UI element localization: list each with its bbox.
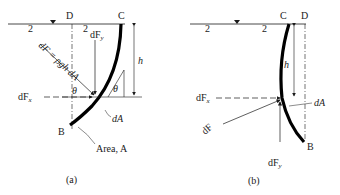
caption-a: (a) bbox=[66, 174, 77, 186]
dFy-label: dFy bbox=[90, 29, 105, 42]
wave-mark: 2 bbox=[83, 23, 88, 34]
area-label: Area, A bbox=[96, 143, 128, 154]
theta-label-left: θ bbox=[72, 85, 77, 96]
dFx-label: dFx bbox=[18, 91, 33, 104]
theta-label-right: θ bbox=[113, 83, 118, 94]
label-b: B bbox=[307, 141, 314, 152]
water-level-triangle-icon bbox=[234, 20, 240, 24]
wave-mark: 2 bbox=[262, 23, 267, 34]
curved-surface-cb bbox=[281, 24, 304, 142]
h-label: h bbox=[138, 55, 143, 66]
label-d: D bbox=[66, 10, 73, 21]
dFy-label: dFy bbox=[268, 157, 283, 170]
wave-mark: 2 bbox=[205, 23, 210, 34]
dF-label: dF bbox=[199, 121, 214, 136]
h-label: h bbox=[284, 59, 289, 70]
label-d: D bbox=[301, 10, 308, 21]
dA-leader bbox=[289, 103, 312, 106]
caption-b: (b) bbox=[248, 175, 260, 187]
dF-equation-label: dF = ρgh dA bbox=[37, 39, 83, 83]
water-level-triangle-icon bbox=[50, 20, 56, 24]
label-c: C bbox=[280, 10, 287, 21]
dFx-label: dFx bbox=[196, 92, 211, 105]
label-b: B bbox=[58, 126, 65, 137]
figure-b: 2 2 C D B h dFx dF dA dFy (b) bbox=[190, 10, 326, 187]
figure-a: 2 2 D C B h dF = ρgh dA dFy dFx θ θ dA A… bbox=[8, 10, 143, 186]
hydrostatic-force-diagram: 2 2 D C B h dF = ρgh dA dFy dFx θ θ dA A… bbox=[0, 0, 340, 195]
label-c: C bbox=[118, 10, 125, 21]
dA-label: dA bbox=[112, 113, 124, 124]
dA-label: dA bbox=[314, 97, 326, 108]
dF-arrow bbox=[223, 100, 280, 124]
wave-mark: 2 bbox=[28, 23, 33, 34]
